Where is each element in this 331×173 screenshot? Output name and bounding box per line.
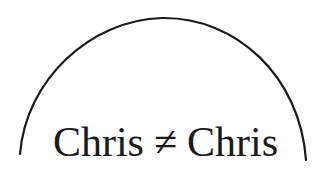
left-name: Chris xyxy=(53,118,144,166)
inequality-label: Chris≠Chris xyxy=(0,118,331,166)
not-equal-symbol: ≠ xyxy=(154,118,177,166)
right-name: Chris xyxy=(187,118,278,166)
